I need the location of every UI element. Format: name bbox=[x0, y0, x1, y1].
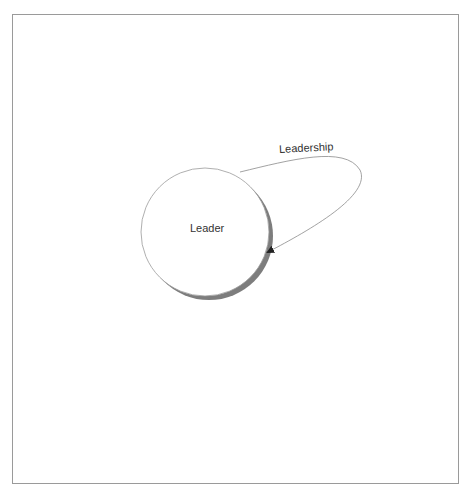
leader-node-label: Leader bbox=[190, 222, 224, 234]
diagram-canvas bbox=[0, 0, 472, 495]
